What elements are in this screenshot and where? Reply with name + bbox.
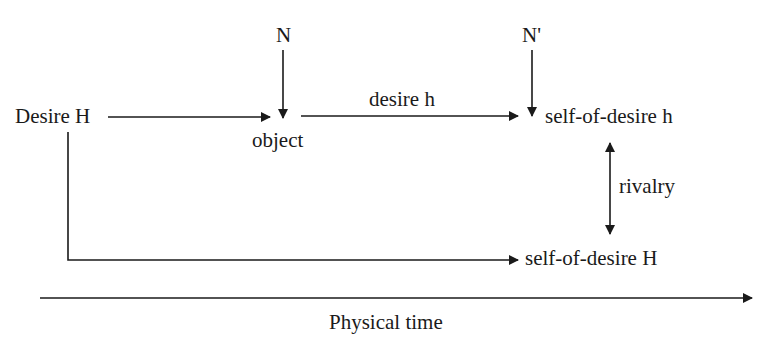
node-object: object (252, 130, 303, 151)
desire-diagram (0, 0, 762, 346)
node-self-of-desire-H: self-of-desire H (525, 248, 657, 269)
node-N: N (276, 25, 291, 46)
axis-label-physical-time: Physical time (329, 312, 443, 333)
node-N-prime: N' (522, 25, 541, 46)
edge-label-rivalry: rivalry (619, 176, 675, 197)
edge-label-desire-h: desire h (369, 89, 435, 110)
node-self-of-desire-h: self-of-desire h (545, 106, 673, 127)
node-desire-H: Desire H (15, 106, 90, 127)
